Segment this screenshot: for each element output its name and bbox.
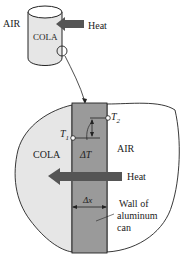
t1-marker xyxy=(71,136,76,141)
wall-label-line1: Wall of xyxy=(119,198,149,209)
top-cola-label: COLA xyxy=(33,32,58,42)
delta-t-label: ΔT xyxy=(79,149,93,160)
heat-conduction-diagram: AIR COLA Heat T2 T1 ΔT COLA AIR Heat Δx … xyxy=(0,0,191,263)
detail-cola-label: COLA xyxy=(33,149,61,160)
wall-label-line2: aluminum xyxy=(117,210,158,221)
t2-marker xyxy=(106,116,111,121)
detail-heat-label: Heat xyxy=(127,171,146,182)
detail-air-label: AIR xyxy=(117,143,135,154)
top-air-label: AIR xyxy=(3,18,21,29)
delta-x-label: Δx xyxy=(82,195,92,205)
wall-label-line3: can xyxy=(117,222,131,233)
top-heat-label: Heat xyxy=(88,20,107,31)
pointer-line xyxy=(65,56,85,102)
